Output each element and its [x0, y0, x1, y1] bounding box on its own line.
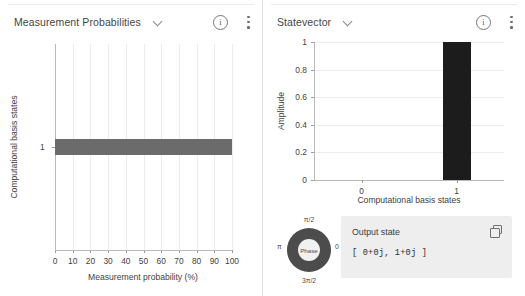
x-tick-label: 0	[359, 186, 364, 196]
y-axis-title: Amplitude	[276, 92, 286, 130]
y-gridline	[314, 42, 504, 43]
kebab-dot	[247, 26, 249, 28]
x-tick-mark	[457, 180, 458, 183]
phase-label-bottom: 3π/2	[302, 277, 316, 284]
x-tick-label: 0	[53, 256, 58, 266]
kebab-menu-icon[interactable]	[510, 16, 513, 29]
y-tick-label: 0.4	[295, 120, 307, 130]
x-tick-label: 50	[139, 256, 148, 266]
output-state-value: [ 0+0j, 1+0j ]	[352, 248, 427, 258]
left-panel-header: Measurement Probabilities i	[14, 11, 250, 33]
measurement-probabilities-panel: Measurement Probabilities i Computationa…	[0, 0, 262, 296]
copy-icon[interactable]	[490, 225, 502, 237]
x-axis-title: Measurement probability (%)	[88, 272, 198, 282]
y-tick-label: 0.2	[295, 147, 307, 157]
x-axis-line	[55, 250, 232, 251]
phase-label-left: π	[277, 243, 282, 250]
y-tick-label: 1	[40, 142, 45, 152]
output-state-title: Output state	[352, 227, 400, 237]
x-tick-label: 60	[157, 256, 166, 266]
kebab-dot	[510, 16, 512, 18]
kebab-dot	[510, 26, 512, 28]
right-panel-header: Statevector i	[277, 11, 513, 33]
left-panel-title: Measurement Probabilities	[14, 16, 141, 28]
bar-amplitude	[443, 42, 471, 180]
x-tick-label: 20	[86, 256, 95, 266]
y-axis-title: Computational basis states	[9, 95, 19, 198]
y-tick-mark	[311, 180, 314, 181]
x-tick-label: 70	[174, 256, 183, 266]
phase-label-right: 0	[335, 243, 339, 250]
panel-top-divider	[271, 4, 517, 5]
chevron-down-icon[interactable]	[153, 17, 164, 28]
y-axis-line	[314, 42, 315, 180]
x-tick-mark	[362, 180, 363, 183]
plot-area-statevector	[314, 42, 504, 180]
kebab-menu-icon[interactable]	[247, 16, 250, 29]
copy-icon-front	[490, 228, 500, 238]
x-tick-label: 40	[121, 256, 130, 266]
y-gridline	[314, 70, 504, 71]
y-tick-label: 0	[302, 175, 307, 185]
phase-label-top: π/2	[304, 216, 314, 223]
x-tick-mark	[232, 250, 233, 253]
phase-hub: Phase	[298, 239, 320, 261]
x-tick-label: 10	[68, 256, 77, 266]
x-tick-label: 80	[192, 256, 201, 266]
x-axis-title: Computational basis states	[357, 195, 460, 205]
kebab-dot	[510, 21, 512, 23]
y-gridline	[314, 97, 504, 98]
y-gridline	[314, 180, 504, 181]
chevron-down-icon[interactable]	[343, 17, 354, 28]
x-tick-label: 100	[225, 256, 239, 266]
phase-wheel[interactable]: Phase	[287, 228, 331, 272]
x-tick-label: 1	[454, 186, 459, 196]
kebab-dot	[247, 21, 249, 23]
output-state-card: Output state [ 0+0j, 1+0j ]	[341, 216, 512, 278]
visualization-root: Measurement Probabilities i Computationa…	[0, 0, 525, 296]
panel-top-divider	[8, 4, 254, 5]
right-panel-title: Statevector	[277, 16, 331, 28]
y-gridline	[314, 125, 504, 126]
x-gridline	[232, 44, 233, 250]
kebab-dot	[247, 16, 249, 18]
x-tick-label: 30	[103, 256, 112, 266]
info-icon[interactable]: i	[476, 15, 491, 30]
info-icon[interactable]: i	[213, 15, 228, 30]
y-tick-label: 1	[302, 37, 307, 47]
bar-probability	[55, 139, 232, 155]
y-tick-label: 0.6	[295, 92, 307, 102]
phase-hub-label: Phase	[300, 247, 318, 254]
y-tick-label: 0.8	[295, 65, 307, 75]
y-gridline	[314, 152, 504, 153]
x-tick-label: 90	[210, 256, 219, 266]
y-tick-mark	[52, 147, 55, 148]
